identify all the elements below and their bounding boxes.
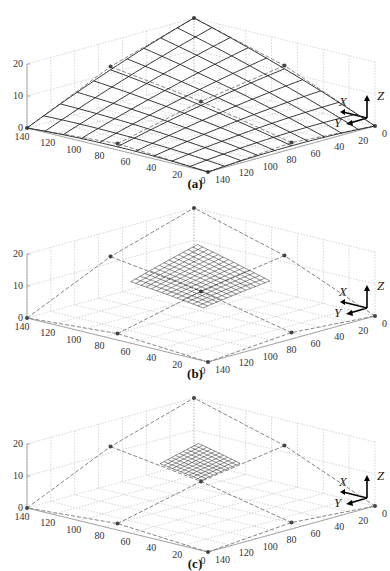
mesh-line [111, 70, 292, 146]
floor-grid-line [170, 89, 351, 133]
floor-grid-line [194, 462, 375, 506]
wall-grid-line [194, 430, 375, 474]
x-axis-label: X [338, 284, 348, 299]
left-tick-label: 100 [66, 524, 81, 535]
left-axis [27, 508, 208, 552]
control-polygon [118, 446, 285, 524]
control-point [109, 445, 113, 449]
control-point [373, 314, 377, 318]
control-point [25, 506, 29, 510]
right-tick-label: 60 [310, 528, 320, 539]
z-arrowhead [364, 285, 370, 291]
control-point [192, 396, 196, 400]
mesh-line [63, 38, 230, 135]
wall-grid-line [194, 18, 375, 62]
floor-grid-line [99, 488, 280, 532]
left-tick-label: 100 [66, 144, 81, 155]
left-tick-label: 80 [95, 340, 105, 351]
x-arrow [343, 302, 367, 308]
right-tick-label: 100 [263, 541, 278, 552]
right-tick-label: 0 [382, 508, 387, 519]
control-point [290, 141, 294, 145]
z-tick-label: 10 [13, 280, 23, 291]
control-point [290, 521, 294, 525]
right-tick-label: 60 [310, 338, 320, 349]
z-arrowhead [364, 95, 370, 101]
y-arrowhead [346, 310, 353, 316]
mesh-line [146, 252, 213, 287]
wall-grid-line [194, 240, 375, 284]
floor-grid-line [182, 120, 349, 166]
floor-grid-line [99, 298, 280, 342]
right-tick-label: 80 [287, 154, 297, 165]
right-tick-label: 60 [310, 148, 320, 159]
y-arrowhead [346, 500, 353, 506]
mesh-line [45, 28, 212, 132]
left-tick-label: 60 [120, 156, 130, 167]
mesh-line [155, 268, 227, 298]
floor-grid-line [130, 297, 297, 343]
wall-grid-line [194, 208, 375, 252]
panel-c: 2010014012010080604020014012010080604020… [0, 380, 390, 570]
control-point [199, 99, 203, 103]
control-point [283, 64, 287, 68]
z-axis-label: Z [377, 88, 385, 103]
right-tick-label: 0 [382, 318, 387, 329]
control-polygon [27, 398, 194, 508]
control-point [25, 316, 29, 320]
right-tick-label: 140 [215, 174, 230, 185]
left-tick-label: 40 [146, 542, 156, 553]
mesh-line [188, 250, 260, 285]
mesh-line [27, 18, 194, 128]
mesh-line [136, 247, 203, 283]
left-tick-label: 120 [40, 517, 55, 528]
left-tick-label: 60 [120, 346, 130, 357]
right-tick-label: 100 [263, 161, 278, 172]
right-tick-label: 40 [334, 331, 344, 342]
mesh-line [162, 260, 229, 293]
floor-grid-line [122, 292, 303, 336]
control-point [116, 522, 120, 526]
wall-grid-line [194, 50, 375, 94]
right-tick-label: 20 [358, 515, 368, 526]
mesh-line [99, 58, 266, 142]
right-tick-label: 80 [287, 344, 297, 355]
control-point [109, 255, 113, 259]
x-axis-label: X [338, 474, 348, 489]
panel-a: 2010014012010080604020014012010080604020… [0, 0, 390, 190]
floor-grid-line [53, 468, 220, 514]
right-tick-label: 120 [239, 167, 254, 178]
floor-grid-line [156, 493, 323, 539]
plot-c: 2010014012010080604020014012010080604020… [0, 380, 390, 571]
floor-grid-line [182, 310, 349, 356]
panel-caption: (a) [187, 176, 202, 190]
control-polygon [27, 18, 194, 128]
left-tick-label: 140 [15, 511, 30, 522]
z-tick-label: 10 [13, 90, 23, 101]
control-polygon [118, 256, 285, 334]
right-tick-label: 40 [334, 141, 344, 152]
floor-grid-line [130, 487, 297, 533]
wall-grid-line [194, 398, 375, 442]
control-point [109, 65, 113, 69]
right-tick-label: 40 [334, 521, 344, 532]
left-tick-label: 20 [172, 549, 182, 560]
left-tick-label: 140 [15, 321, 30, 332]
left-tick-label: 140 [15, 131, 30, 142]
y-axis-label: Y [334, 495, 343, 510]
floor-grid-line [79, 475, 246, 521]
floor-grid-line [146, 475, 327, 519]
control-polygon [118, 66, 285, 144]
left-tick-label: 20 [172, 359, 182, 370]
mesh-line [141, 250, 208, 286]
control-point [206, 360, 210, 364]
mesh-line [81, 48, 248, 139]
left-tick-label: 40 [146, 162, 156, 173]
right-tick-label: 100 [263, 351, 278, 362]
floor-grid-line [122, 482, 303, 526]
plot-b: 2010014012010080604020014012010080604020… [0, 190, 390, 380]
y-axis-label: Y [334, 305, 343, 320]
right-tick-label: 20 [358, 325, 368, 336]
floor-grid-line [146, 95, 327, 139]
left-tick-label: 120 [40, 327, 55, 338]
